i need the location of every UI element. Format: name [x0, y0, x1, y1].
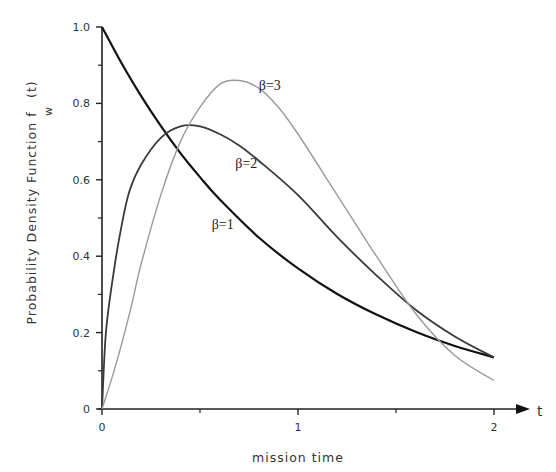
x-axis: 012	[98, 404, 530, 434]
y-axis-title: Probability Density Function f w (t)	[24, 80, 55, 324]
series-labels: β=1β=2β=3	[212, 78, 281, 232]
series-label-beta-1: β=1	[212, 217, 234, 232]
x-tick-label: 1	[295, 421, 302, 434]
x-axis-title: mission time	[252, 450, 344, 465]
y-tick-label: 0.8	[73, 97, 91, 110]
series-label-beta-3: β=3	[259, 78, 281, 93]
y-axis-title-subscript: w	[42, 106, 55, 116]
y-tick-label: 0.6	[73, 174, 91, 187]
y-axis-title-suffix: (t)	[24, 80, 39, 98]
series-line-beta-1	[102, 27, 494, 357]
series-label-beta-2: β=2	[235, 156, 257, 171]
y-tick-label: 0.4	[73, 250, 91, 263]
x-axis-symbol: t	[537, 403, 544, 419]
x-axis-arrow-icon	[516, 404, 530, 414]
series-line-beta-3	[102, 80, 494, 409]
y-tick-label: 0.2	[73, 327, 91, 340]
x-tick-label: 2	[491, 421, 498, 434]
series-layer	[102, 27, 494, 409]
y-tick-label: 1.0	[73, 21, 91, 34]
y-tick-label: 0	[83, 403, 90, 416]
x-tick-label: 0	[99, 421, 106, 434]
series-line-beta-2	[102, 125, 494, 409]
weibull-pdf-chart: 00.20.40.60.81.0 012 β=1β=2β=3 mission t…	[0, 0, 556, 472]
y-axis: 00.20.40.60.81.0	[73, 21, 103, 416]
y-axis-title-main: Probability Density Function f	[24, 111, 39, 324]
